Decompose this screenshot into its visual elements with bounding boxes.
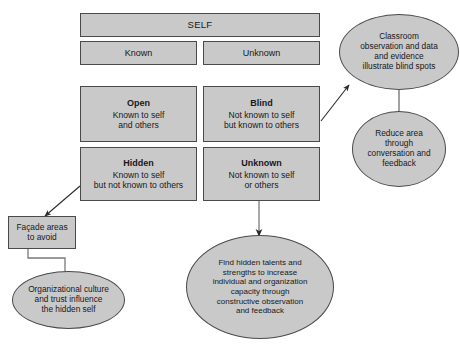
edge-hidden-to-facade (45, 186, 80, 216)
callout-find-hidden-talents-line-5: constructive observation (217, 297, 303, 307)
quadrant-unknown-title: Unknown (241, 158, 282, 169)
quadrant-unknown-line-2: or others (245, 180, 279, 190)
callout-organizational-culture-line-3: the hidden self (42, 305, 96, 315)
callout-classroom-observation: Classroom observation and data and evide… (339, 14, 459, 90)
facade-line-2: to avoid (27, 233, 56, 243)
callout-find-hidden-talents-line-3: individual and organization (213, 277, 308, 287)
quadrant-open-title: Open (127, 98, 150, 109)
callout-reduce-area-line-4: feedback (382, 159, 416, 169)
quadrant-open: Open Known to self and others (80, 86, 197, 142)
header-self-label: SELF (188, 19, 213, 30)
header-known-cell: Known (80, 41, 197, 65)
header-unknown-label: Unknown (243, 48, 281, 59)
callout-find-hidden-talents: Find hidden talents and strengths to inc… (186, 235, 334, 339)
header-unknown-cell: Unknown (203, 41, 320, 65)
quadrant-hidden-line-2: but not known to others (94, 180, 183, 190)
callout-find-hidden-talents-line-6: and feedback (236, 306, 284, 316)
quadrant-hidden-line-1: Known to self (113, 170, 165, 180)
quadrant-blind-title: Blind (250, 98, 273, 109)
quadrant-hidden: Hidden Known to self but not known to ot… (80, 147, 197, 201)
quadrant-blind-line-2: but known to others (224, 120, 299, 130)
johari-window-diagram: SELF Known Unknown Open Known to self an… (0, 0, 460, 344)
edge-facade-to-organizational-culture (28, 249, 65, 272)
quadrant-hidden-title: Hidden (123, 158, 154, 169)
facade-line-1: Façade areas (16, 223, 67, 233)
quadrant-blind: Blind Not known to self but known to oth… (203, 86, 320, 142)
facade-areas-box: Façade areas to avoid (8, 216, 76, 249)
header-known-label: Known (125, 48, 153, 59)
quadrant-open-line-2: and others (118, 120, 159, 130)
callout-classroom-line-4: illustrate blind spots (363, 62, 436, 72)
quadrant-unknown: Unknown Not known to self or others (203, 147, 320, 201)
quadrant-open-line-1: Known to self (113, 110, 165, 120)
edge-blind-to-classroom (321, 85, 349, 121)
quadrant-unknown-line-1: Not known to self (229, 170, 295, 180)
quadrant-blind-line-1: Not known to self (229, 110, 295, 120)
callout-find-hidden-talents-line-1: Find hidden talents and (218, 258, 301, 268)
callout-organizational-culture: Organizational culture and trust influen… (12, 271, 125, 329)
callout-find-hidden-talents-line-2: strengths to increase (223, 268, 297, 278)
callout-find-hidden-talents-line-4: capacity through (231, 287, 290, 297)
callout-reduce-area: Reduce area through conversation and fee… (352, 111, 446, 187)
header-self-band: SELF (80, 13, 320, 37)
